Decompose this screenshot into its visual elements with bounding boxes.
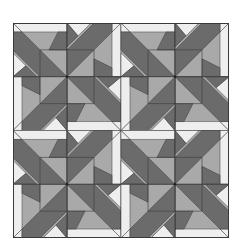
quilt-block-top-right xyxy=(121,23,229,131)
quilt-svg xyxy=(13,23,229,238)
quilt-block-bottom-left xyxy=(13,131,121,239)
quilt-block-top-left xyxy=(13,23,121,131)
quilt-block-bottom-right xyxy=(121,131,229,239)
quilt-pattern xyxy=(13,23,229,238)
